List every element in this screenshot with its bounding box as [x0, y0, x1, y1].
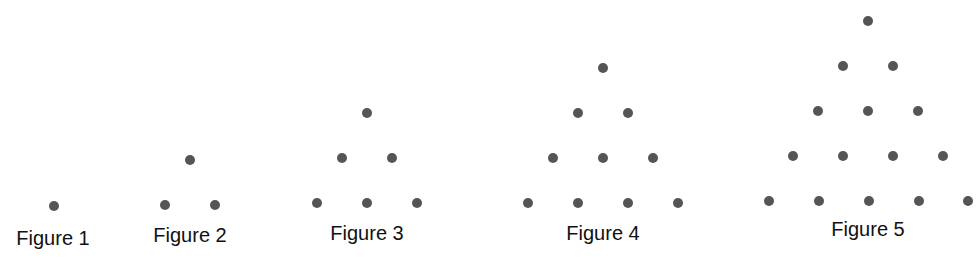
dot [838, 151, 848, 161]
figure-label: Figure 5 [831, 218, 904, 240]
figure-label: Figure 1 [16, 227, 89, 249]
dot [548, 153, 558, 163]
dot [312, 198, 322, 208]
dot [185, 155, 195, 165]
dot [888, 151, 898, 161]
dot [788, 151, 798, 161]
dot-pattern-diagram: Figure 1Figure 2Figure 3Figure 4Figure 5 [0, 0, 976, 261]
dot [863, 106, 873, 116]
dot [523, 198, 533, 208]
figure-label: Figure 3 [330, 222, 403, 244]
dot [387, 153, 397, 163]
figure-4: Figure 4 [523, 63, 683, 244]
dot [963, 196, 973, 206]
dot [598, 153, 608, 163]
dot [623, 108, 633, 118]
dot [673, 198, 683, 208]
dot [764, 196, 774, 206]
dot [49, 201, 59, 211]
dot [362, 198, 372, 208]
dot [864, 196, 874, 206]
dot [914, 196, 924, 206]
dot [160, 200, 170, 210]
dot [838, 61, 848, 71]
dot [210, 200, 220, 210]
dot [814, 196, 824, 206]
dot [362, 108, 372, 118]
dot [598, 63, 608, 73]
dot [573, 198, 583, 208]
dot [938, 151, 948, 161]
figure-2: Figure 2 [153, 155, 226, 246]
dot [913, 106, 923, 116]
dot [648, 153, 658, 163]
figure-label: Figure 4 [566, 222, 639, 244]
figure-5: Figure 5 [764, 16, 973, 240]
dot [888, 61, 898, 71]
figure-1: Figure 1 [16, 201, 89, 249]
dot [863, 16, 873, 26]
dot [337, 153, 347, 163]
figure-label: Figure 2 [153, 224, 226, 246]
dot [412, 198, 422, 208]
figure-3: Figure 3 [312, 108, 422, 244]
dot [573, 108, 583, 118]
diagram-canvas: Figure 1Figure 2Figure 3Figure 4Figure 5 [0, 0, 976, 261]
dot [813, 106, 823, 116]
dot [623, 198, 633, 208]
